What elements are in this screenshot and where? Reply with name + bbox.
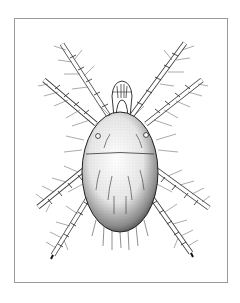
mite-illustration xyxy=(0,0,240,303)
leg-fourth-left xyxy=(46,195,90,259)
leg-fourth-right xyxy=(150,195,198,257)
idiosoma xyxy=(64,106,178,250)
eye-spot-right xyxy=(144,133,149,138)
leg-third-right xyxy=(154,168,210,208)
eye-spot-left xyxy=(96,134,101,139)
leg-front-left xyxy=(54,44,110,118)
leg-front-right xyxy=(130,43,194,118)
leg-third-left xyxy=(36,166,86,212)
